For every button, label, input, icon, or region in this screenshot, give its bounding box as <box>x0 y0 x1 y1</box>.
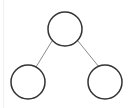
node-root <box>48 12 82 46</box>
edge-root-to-right-child <box>78 41 99 67</box>
node-right-child <box>88 65 122 99</box>
node-left-child <box>11 65 45 99</box>
tree-diagram <box>0 0 139 108</box>
tree-diagram-canvas <box>0 0 139 108</box>
edge-root-to-left-child <box>36 41 52 67</box>
nodes-group <box>11 12 122 99</box>
